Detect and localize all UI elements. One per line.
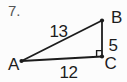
side-bc-length-label: 5 xyxy=(109,36,118,55)
side-ac-length-label: 12 xyxy=(60,63,78,82)
side-ab-length-label: 13 xyxy=(50,22,68,41)
vertex-a-dot xyxy=(19,59,23,63)
vertex-c-label: C xyxy=(105,54,117,73)
worksheet-snippet: 7. A B C 13 12 5 xyxy=(0,0,127,82)
problem-number: 7. xyxy=(8,2,21,19)
vertex-b-dot xyxy=(100,18,104,22)
vertex-b-label: B xyxy=(111,8,122,27)
triangle-diagram: 7. A B C 13 12 5 xyxy=(0,0,127,82)
vertex-a-label: A xyxy=(8,55,20,74)
vertex-c-dot xyxy=(100,54,104,58)
side-ac-line-base xyxy=(22,57,103,62)
